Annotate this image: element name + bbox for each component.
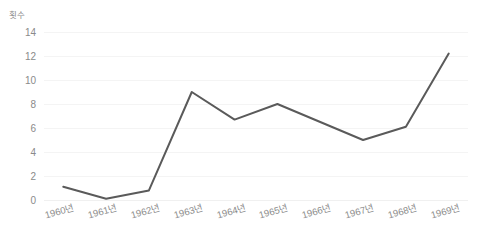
y-tick-label-10: 10 <box>6 75 36 86</box>
x-tick-label-1964년: 1964년 <box>215 200 248 222</box>
x-tick-label-1969년: 1969년 <box>429 200 462 222</box>
y-tick-label-14: 14 <box>6 27 36 38</box>
series-line-횟수 <box>63 54 448 199</box>
x-tick-label-1963년: 1963년 <box>172 200 205 222</box>
gridline-10 <box>44 80 468 81</box>
y-tick-label-8: 8 <box>6 99 36 110</box>
x-tick-label-1967년: 1967년 <box>343 200 376 222</box>
y-axis-title: 횟수 <box>9 8 25 20</box>
y-tick-label-6: 6 <box>6 123 36 134</box>
gridline-12 <box>44 56 468 57</box>
y-tick-label-12: 12 <box>6 51 36 62</box>
x-tick-label-1968년: 1968년 <box>386 200 419 222</box>
gridline-14 <box>44 32 468 33</box>
x-tick-label-1966년: 1966년 <box>300 200 333 222</box>
x-tick-label-1961년: 1961년 <box>86 200 119 222</box>
gridline-4 <box>44 152 468 153</box>
gridline-2 <box>44 176 468 177</box>
x-tick-label-1960년: 1960년 <box>43 200 76 222</box>
line-chart: 횟수 02468101214 1960년1961년1962년1963년1964년… <box>0 0 482 236</box>
y-tick-label-2: 2 <box>6 171 36 182</box>
x-tick-label-1962년: 1962년 <box>129 200 162 222</box>
gridline-6 <box>44 128 468 129</box>
y-tick-label-4: 4 <box>6 147 36 158</box>
gridline-8 <box>44 104 468 105</box>
x-tick-label-1965년: 1965년 <box>257 200 290 222</box>
y-tick-label-0: 0 <box>6 195 36 206</box>
